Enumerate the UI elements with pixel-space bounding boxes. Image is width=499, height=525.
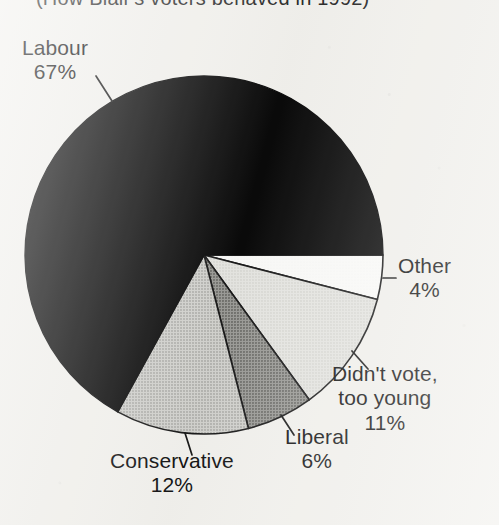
pie-label-didnt-vote-line1: Didn't vote,: [332, 362, 438, 385]
pie-label-liberal-pct: 6%: [285, 449, 349, 473]
pie-label-other-name: Other: [398, 254, 451, 277]
pie-label-conservative-pct: 12%: [110, 473, 234, 497]
pie-label-labour-pct: 67%: [22, 60, 88, 84]
pie-label-other-pct: 4%: [398, 278, 451, 302]
chart-title: (How Blair's voters behaved in 1992): [36, 0, 369, 10]
pie-label-conservative: Conservative 12%: [110, 449, 234, 498]
pie-chart-page: (How Blair's voters behaved in 1992): [0, 0, 499, 525]
pie-label-liberal: Liberal 6%: [285, 425, 349, 474]
pie-label-conservative-name: Conservative: [110, 449, 234, 472]
leader-line-labour: [96, 76, 112, 101]
pie-label-other: Other 4%: [398, 254, 451, 303]
pie-label-labour: Labour 67%: [22, 36, 88, 85]
pie-label-liberal-name: Liberal: [285, 425, 349, 448]
pie-label-didnt-vote-line2: too young: [332, 386, 438, 410]
pie-label-labour-name: Labour: [22, 36, 88, 59]
